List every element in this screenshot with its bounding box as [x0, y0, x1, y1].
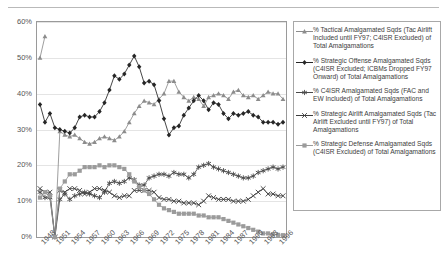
data-point-square [226, 219, 230, 223]
data-point-star [231, 172, 236, 177]
data-point-square [182, 212, 186, 216]
data-point-x [157, 195, 162, 200]
legend-label: % Strategic Offense Amalgamated Sqds (C4… [313, 57, 437, 82]
data-point-square [231, 221, 235, 225]
data-point-x [251, 193, 256, 198]
legend-marker-square-icon [296, 141, 313, 150]
data-point-square [187, 212, 191, 216]
data-point-diamond [177, 123, 181, 128]
data-point-x [256, 190, 261, 195]
data-point-diamond [246, 109, 250, 114]
data-point-triangle [43, 34, 48, 38]
data-point-diamond [137, 64, 141, 69]
data-point-diamond [281, 120, 285, 125]
y-axis-tick-label: 10% [0, 197, 32, 205]
data-point-triangle [302, 29, 307, 33]
legend-label: % Strategic Airlift Amalgamated Sqds (Ta… [313, 110, 437, 135]
data-point-diamond [58, 127, 62, 132]
legend-item[interactable]: % Strategic Defense Amalgamated Sqds (C4… [296, 140, 437, 156]
data-point-triangle [92, 140, 97, 144]
data-point-square [58, 187, 62, 191]
data-point-star [167, 173, 172, 178]
data-point-star [266, 166, 271, 171]
data-point-diamond [266, 120, 270, 125]
data-point-diamond [271, 120, 275, 125]
data-point-diamond [53, 125, 57, 130]
data-point-star [261, 168, 266, 173]
data-point-triangle [142, 98, 147, 102]
data-point-square [152, 197, 156, 201]
data-point-star [171, 170, 176, 175]
legend-item[interactable]: % Strategic Offense Amalgamated Sqds (C4… [296, 57, 437, 82]
chart-figure: ······ ·· · · · · · ·· 0%10%20%30%40%50%… [0, 0, 447, 276]
data-point-star [226, 170, 231, 175]
data-point-square [43, 190, 47, 194]
data-point-star [117, 181, 122, 186]
data-point-x [201, 199, 206, 204]
legend-item[interactable]: % Tactical Amalgamated Sqds (Tac Airlift… [296, 26, 437, 51]
data-point-star [72, 193, 77, 198]
data-point-triangle [251, 93, 256, 97]
data-point-star [302, 90, 307, 95]
data-point-triangle [162, 91, 167, 95]
chart-legend: % Tactical Amalgamated Sqds (Tac Airlift… [293, 21, 441, 211]
data-point-star [112, 179, 117, 184]
y-axis-tick-label: 20% [0, 161, 32, 169]
data-point-diamond [241, 111, 245, 116]
data-point-diamond [276, 122, 280, 127]
legend-label: % C4ISR Amalgamated Sqds (FAC and EW Inc… [313, 87, 437, 103]
series-line [40, 56, 283, 135]
data-point-triangle [236, 88, 241, 92]
data-point-square [192, 212, 196, 216]
cropped-caption-text: ······ ·· · · · · · ·· [14, 0, 74, 2]
data-point-triangle [102, 134, 107, 138]
y-axis-tick-label: 0% [0, 233, 32, 241]
data-point-square [246, 226, 250, 230]
data-point-square [207, 215, 211, 219]
data-point-diamond [152, 82, 156, 87]
data-point-square [132, 179, 136, 183]
data-point-diamond [102, 100, 106, 105]
data-point-diamond [216, 102, 220, 107]
y-axis-tick-label: 30% [0, 126, 32, 134]
data-point-star [221, 168, 226, 173]
data-point-square [236, 222, 240, 226]
data-point-square [221, 217, 225, 221]
data-point-triangle [256, 97, 261, 101]
data-point-square [107, 163, 111, 167]
data-point-star [271, 165, 276, 170]
data-point-diamond [48, 111, 52, 116]
data-point-square [92, 165, 96, 169]
data-point-square [63, 179, 67, 183]
horizontal-rule [8, 7, 439, 8]
data-point-star [281, 165, 286, 170]
y-axis-tick-label: 40% [0, 90, 32, 98]
data-point-diamond [147, 79, 151, 84]
data-point-diamond [157, 98, 161, 103]
data-point-square [302, 144, 306, 148]
data-point-x [246, 197, 251, 202]
data-point-square [216, 215, 220, 219]
data-point-square [97, 163, 101, 167]
data-point-x [112, 193, 117, 198]
data-point-triangle [122, 129, 127, 133]
legend-item[interactable]: % Strategic Airlift Amalgamated Sqds (Ta… [296, 110, 437, 135]
data-point-triangle [261, 93, 266, 97]
data-point-star [206, 161, 211, 166]
data-point-diamond [112, 73, 116, 78]
data-point-triangle [82, 140, 87, 144]
data-point-square [117, 165, 121, 169]
data-point-triangle [266, 89, 271, 93]
data-point-triangle [176, 89, 181, 93]
data-point-star [186, 175, 191, 180]
y-axis-tick-label: 50% [0, 54, 32, 62]
data-point-x [117, 195, 122, 200]
data-point-star [216, 166, 221, 171]
legend-item[interactable]: % C4ISR Amalgamated Sqds (FAC and EW Inc… [296, 87, 437, 103]
data-point-star [256, 170, 261, 175]
data-point-diamond [162, 116, 166, 121]
data-point-square [38, 195, 42, 199]
data-point-square [172, 210, 176, 214]
data-point-diamond [63, 129, 67, 134]
data-point-triangle [72, 132, 77, 136]
